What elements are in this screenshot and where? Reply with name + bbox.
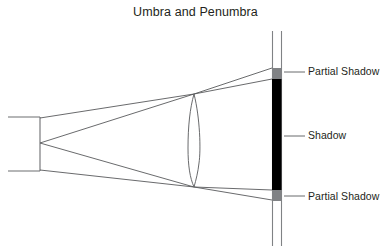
light-source-box bbox=[8, 117, 40, 171]
ray-top-edge-lower bbox=[40, 79, 272, 143]
shadow-bands bbox=[272, 68, 282, 201]
penumbra-top-band bbox=[272, 68, 282, 79]
label-partial-shadow-top: Partial Shadow bbox=[308, 65, 379, 77]
umbra-penumbra-diagram: Umbra and Penumbra bbox=[0, 0, 391, 249]
label-shadow: Shadow bbox=[308, 129, 346, 141]
ray-bottom-edge-lower bbox=[40, 170, 272, 200]
ray-bundle bbox=[40, 68, 272, 200]
umbra-band bbox=[272, 79, 282, 190]
penumbra-bottom-band bbox=[272, 190, 282, 201]
diagram-canvas bbox=[0, 0, 391, 249]
ray-top-edge-upper bbox=[40, 68, 272, 118]
label-partial-shadow-bottom: Partial Shadow bbox=[308, 190, 379, 202]
leader-lines bbox=[284, 72, 305, 196]
lens bbox=[188, 94, 200, 187]
